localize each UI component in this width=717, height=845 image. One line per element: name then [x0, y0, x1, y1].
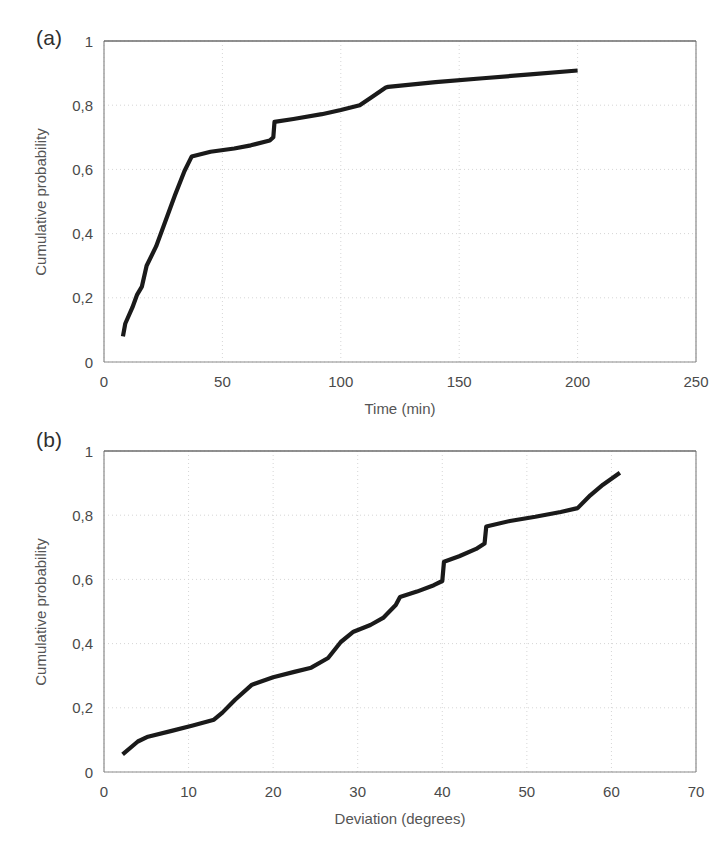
x-tick-label: 150	[447, 373, 472, 390]
x-tick-label: 20	[265, 783, 282, 800]
y-tick-label: 1	[85, 443, 93, 460]
x-tick-label: 50	[519, 783, 536, 800]
y-tick-label: 0,4	[72, 635, 93, 652]
x-tick-label: 40	[434, 783, 451, 800]
x-tick-label: 70	[688, 783, 705, 800]
x-tick-label: 0	[100, 373, 108, 390]
x-tick-label: 50	[214, 373, 231, 390]
x-tick-label: 0	[100, 783, 108, 800]
plot-area-a: 00,20,40,60,81050100150200250	[0, 0, 717, 420]
x-tick-label: 60	[603, 783, 620, 800]
y-tick-label: 0,2	[72, 699, 93, 716]
y-tick-label: 0,4	[72, 225, 93, 242]
y-tick-label: 0,6	[72, 161, 93, 178]
figure-panel-a: (a) Cumulative probability Time (min) 00…	[0, 0, 717, 420]
x-tick-label: 100	[328, 373, 353, 390]
y-tick-label: 0	[85, 764, 93, 781]
y-tick-label: 0,6	[72, 571, 93, 588]
y-tick-label: 0,8	[72, 507, 93, 524]
figure-panel-b: (b) Cumulative probability Deviation (de…	[0, 420, 717, 845]
data-line-b	[123, 473, 620, 755]
y-tick-label: 1	[85, 33, 93, 50]
y-tick-label: 0,2	[72, 289, 93, 306]
data-line-a	[123, 71, 578, 337]
x-tick-label: 10	[180, 783, 197, 800]
y-tick-label: 0,8	[72, 97, 93, 114]
plot-area-b: 00,20,40,60,81010203040506070	[0, 420, 717, 845]
x-tick-label: 250	[683, 373, 708, 390]
x-tick-label: 200	[565, 373, 590, 390]
x-tick-label: 30	[349, 783, 366, 800]
y-tick-label: 0	[85, 354, 93, 371]
